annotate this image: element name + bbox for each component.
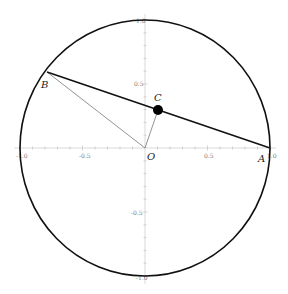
point-label-A: A	[257, 153, 265, 164]
x-tick-label: 1.0	[267, 152, 277, 159]
segment-OB	[47, 72, 145, 148]
x-tick-label: -0.5	[79, 152, 91, 159]
point-label-O: O	[147, 151, 155, 162]
point-label-B: B	[40, 79, 48, 90]
x-tick-label: 0.5	[204, 152, 214, 159]
segment-OC	[145, 110, 158, 148]
x-tick-label: -1.0	[16, 152, 28, 159]
y-tick-label: 0.5	[134, 80, 144, 87]
y-tick-label: -0.5	[131, 209, 143, 216]
diagram-canvas: -1.0 -0.5 0.5 1.0 1.0 0.5 -0.5 -1.0 A B …	[0, 0, 288, 294]
point-C-marker[interactable]	[153, 105, 163, 115]
axes	[14, 14, 276, 284]
point-label-C: C	[154, 92, 162, 103]
